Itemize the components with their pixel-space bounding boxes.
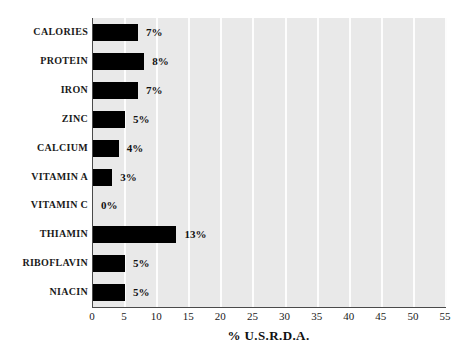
- x-tick-label: 0: [89, 310, 95, 322]
- x-tick-label: 40: [343, 310, 354, 322]
- bar-value-label: 4%: [127, 140, 144, 157]
- bar-value-label: 7%: [146, 24, 163, 41]
- category-label: PROTEIN: [0, 47, 88, 76]
- bar: [93, 140, 119, 157]
- category-label: CALORIES: [0, 18, 88, 47]
- category-label: THIAMIN: [0, 220, 88, 249]
- x-tick-label: 35: [311, 310, 322, 322]
- bar-row: 7%: [93, 76, 446, 105]
- category-label: IRON: [0, 76, 88, 105]
- bar-row: 5%: [93, 249, 446, 278]
- bar-value-label: 3%: [120, 169, 137, 186]
- bar-row: 5%: [93, 105, 446, 134]
- category-label: VITAMIN A: [0, 163, 88, 192]
- bar: [93, 24, 138, 41]
- x-tick-label: 10: [151, 310, 162, 322]
- x-tick-label: 5: [121, 310, 127, 322]
- category-label: NIACIN: [0, 278, 88, 307]
- bar-value-label: 0%: [101, 197, 118, 214]
- bar-row: 0%: [93, 191, 446, 220]
- bar-row: 4%: [93, 134, 446, 163]
- bar-row: 13%: [93, 220, 446, 249]
- bar: [93, 255, 125, 272]
- bar-row: 3%: [93, 163, 446, 192]
- bar-value-label: 5%: [133, 284, 150, 301]
- bar-value-label: 5%: [133, 111, 150, 128]
- bar: [93, 111, 125, 128]
- category-label: ZINC: [0, 105, 88, 134]
- x-tick-label: 20: [215, 310, 226, 322]
- x-tick-label: 30: [279, 310, 290, 322]
- category-label: VITAMIN C: [0, 191, 88, 220]
- usrda-bar-chart: CALORIESPROTEINIRONZINCCALCIUMVITAMIN AV…: [0, 0, 470, 350]
- bar-row: 8%: [93, 47, 446, 76]
- x-tick-label: 15: [183, 310, 194, 322]
- x-tick-label: 50: [407, 310, 418, 322]
- bar-value-label: 13%: [184, 226, 206, 243]
- bar-value-label: 8%: [152, 53, 169, 70]
- plot-area: 7%8%7%5%4%3%0%13%5%5%: [92, 18, 446, 308]
- category-label: CALCIUM: [0, 134, 88, 163]
- category-label: RIBOFLAVIN: [0, 249, 88, 278]
- bar-value-label: 5%: [133, 255, 150, 272]
- category-axis-labels: CALORIESPROTEINIRONZINCCALCIUMVITAMIN AV…: [0, 18, 88, 307]
- x-axis-tick-labels: 0510152025303540455055: [92, 310, 445, 326]
- x-tick-label: 25: [247, 310, 258, 322]
- bar: [93, 284, 125, 301]
- bar-row: 5%: [93, 278, 446, 307]
- bar: [93, 226, 176, 243]
- bar-value-label: 7%: [146, 82, 163, 99]
- x-tick-label: 45: [375, 310, 386, 322]
- bar: [93, 82, 138, 99]
- x-axis-title: % U.S.R.D.A.: [92, 328, 445, 344]
- x-tick-label: 55: [440, 310, 451, 322]
- bar-row: 7%: [93, 18, 446, 47]
- bar: [93, 169, 112, 186]
- bar: [93, 53, 144, 70]
